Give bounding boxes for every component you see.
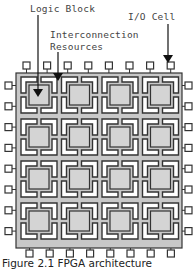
logic-block [29, 127, 49, 147]
io-cell-top [23, 62, 30, 69]
logic-block [110, 85, 130, 105]
io-cell-left [5, 228, 12, 235]
logic-block [110, 211, 130, 231]
io-cell-right [185, 165, 192, 172]
io-cell-bottom [87, 250, 94, 257]
io-cell-right [185, 186, 192, 193]
io-cell-left [5, 82, 12, 89]
io-cell-top [126, 62, 133, 69]
logic-block [151, 211, 171, 231]
io-cell-top [85, 62, 92, 69]
io-cell-bottom [46, 250, 53, 257]
logic-block [70, 127, 90, 147]
io-cell-bottom [147, 250, 154, 257]
io-cell-right [185, 228, 192, 235]
figure-caption: Figure 2.1 FPGA architecture [2, 257, 152, 269]
io-cell-bottom [66, 250, 73, 257]
io-cell-right [185, 124, 192, 131]
logic-block [29, 211, 49, 231]
io-cell-left [5, 165, 12, 172]
io-cell-top [167, 62, 174, 69]
logic-block [29, 169, 49, 189]
io-cell-bottom [107, 250, 114, 257]
io-cell-top [44, 62, 51, 69]
io-cell-top [147, 62, 154, 69]
io-cell-right [185, 144, 192, 151]
io-cell-bottom [167, 250, 174, 257]
io-cell-bottom [127, 250, 134, 257]
io-cell-right [185, 103, 192, 110]
logic-block [110, 127, 130, 147]
io-cell-left [5, 207, 12, 214]
io-cell-right [185, 82, 192, 89]
io-cell-left [5, 124, 12, 131]
logic-block [70, 169, 90, 189]
io-cell-left [5, 103, 12, 110]
logic-block [151, 127, 171, 147]
logic-block [110, 169, 130, 189]
io-cell-top [105, 62, 112, 69]
io-cell-right [185, 207, 192, 214]
logic-block [151, 169, 171, 189]
io-cell-left [5, 144, 12, 151]
logic-block [70, 85, 90, 105]
logic-block [70, 211, 90, 231]
logic-block [151, 85, 171, 105]
io-cell-bottom [26, 250, 33, 257]
io-cell-left [5, 186, 12, 193]
io-cell-top [64, 62, 71, 69]
